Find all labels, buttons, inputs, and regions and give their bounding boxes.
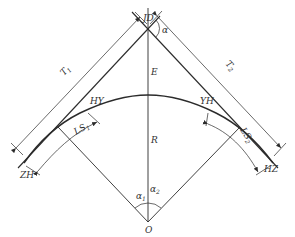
alpha-label: α — [162, 25, 168, 35]
t2-dimension-line — [157, 16, 281, 148]
ls2-extension-yh — [206, 113, 208, 126]
t1-extension-bottom — [11, 143, 23, 155]
t2-label: T2 — [223, 59, 238, 74]
alpha1-angle-arc — [135, 203, 148, 208]
radius-line-right — [148, 127, 240, 222]
radius-line-left — [58, 127, 148, 222]
hy-label: HY — [89, 96, 105, 106]
t2-extension-bottom — [274, 143, 286, 156]
zh-label: ZH — [19, 170, 34, 180]
alpha1-label: α1 — [136, 191, 146, 202]
r-label: R — [150, 135, 158, 145]
alpha-angle-arc — [156, 20, 160, 37]
yh-label: YH — [200, 96, 214, 106]
svg-text:T1: T1 — [58, 63, 73, 78]
hz-label: HZ — [263, 164, 279, 174]
alpha2-label: α2 — [150, 184, 160, 195]
curve-path — [24, 95, 273, 163]
curve-geometry-diagram: JD α E R HY YH ZH HZ O T1 T2 LS1 LS2 α1 … — [0, 0, 295, 237]
o-label: O — [145, 225, 153, 235]
left-tangent-line — [18, 16, 160, 168]
t1-label: T1 — [58, 63, 73, 78]
e-label: E — [150, 67, 158, 77]
svg-text:T2: T2 — [223, 59, 238, 74]
ls1-extension-hy — [88, 113, 100, 124]
alpha2-angle-arc — [148, 203, 161, 208]
jd-label: JD — [141, 13, 154, 23]
